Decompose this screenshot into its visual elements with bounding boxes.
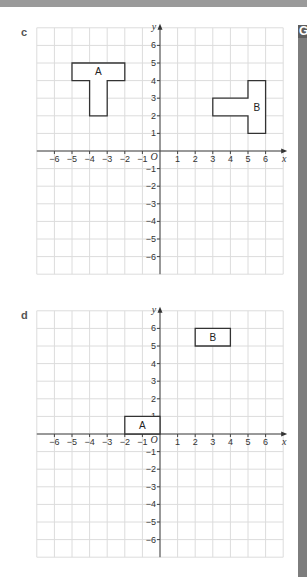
shape-label-a: A	[139, 420, 146, 431]
x-tick-label: 2	[193, 437, 198, 447]
origin-label: O	[150, 434, 157, 445]
x-tick-label: −4	[84, 437, 94, 447]
y-tick-label: 6	[151, 323, 156, 333]
coordinate-grid-d: −6−5−4−3−2−1123456654321−1−2−3−4−5−6OxyA…	[0, 0, 295, 577]
x-tick-label: 4	[228, 437, 233, 447]
side-tab-letter: G	[298, 25, 307, 38]
x-tick-label: −5	[67, 437, 77, 447]
y-tick-label: −6	[146, 535, 156, 545]
y-tick-label: 2	[151, 394, 156, 404]
x-axis-label: x	[281, 436, 287, 447]
y-tick-label: 3	[151, 376, 156, 386]
y-tick-label: 4	[151, 359, 156, 369]
x-tick-label: −1	[137, 437, 147, 447]
x-tick-label: 3	[210, 437, 215, 447]
side-section-tab: G	[298, 25, 307, 577]
y-tick-label: 5	[151, 341, 156, 351]
x-tick-label: −6	[49, 437, 59, 447]
x-tick-label: 6	[263, 437, 268, 447]
x-tick-label: 5	[245, 437, 250, 447]
y-tick-label: −3	[146, 482, 156, 492]
y-tick-label: −1	[146, 447, 156, 457]
x-tick-label: −2	[120, 437, 130, 447]
shape-label-b: B	[209, 332, 216, 343]
x-tick-label: −3	[102, 437, 112, 447]
y-tick-label: −5	[146, 517, 156, 527]
y-tick-label: −4	[146, 499, 156, 509]
y-axis-label: y	[151, 304, 157, 315]
y-axis-arrow-icon	[158, 307, 163, 313]
x-tick-label: 1	[175, 437, 180, 447]
y-tick-label: −2	[146, 464, 156, 474]
